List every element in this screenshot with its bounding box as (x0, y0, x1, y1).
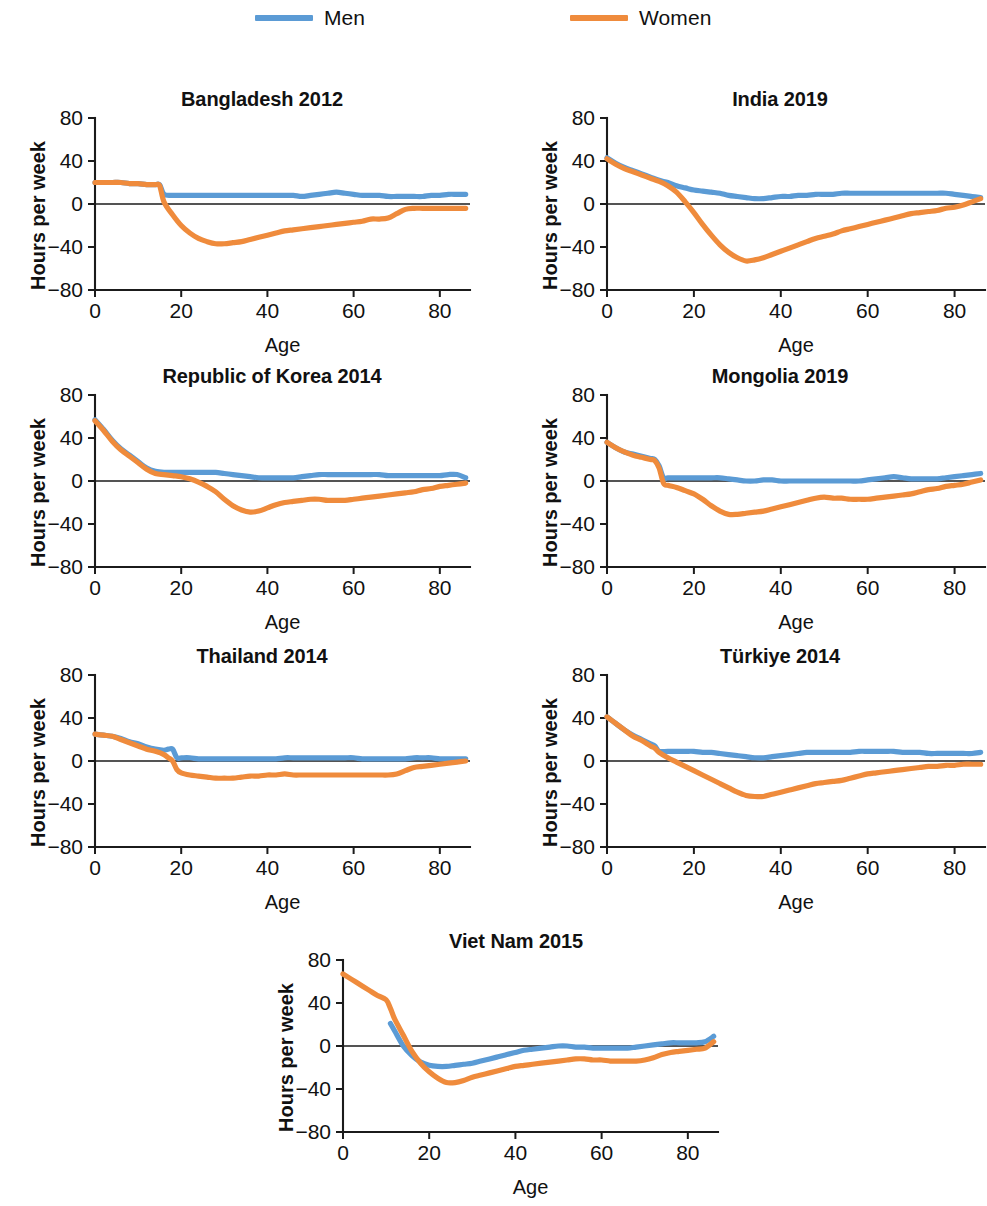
y-tick-label: 40 (60, 149, 83, 172)
y-tick-label: 80 (60, 106, 83, 129)
x-tick-label: 80 (943, 299, 966, 322)
x-tick-label: 40 (769, 576, 792, 599)
legend-label-men: Men (324, 6, 365, 30)
plot-area: 80400−40−80020406080 (248, 930, 738, 1172)
x-tick-label: 40 (256, 856, 279, 879)
x-tick-label: 20 (682, 576, 705, 599)
x-tick-label: 40 (769, 856, 792, 879)
chart-panel: Republic of Korea 2014Hours per weekAge8… (0, 365, 490, 620)
chart-panel: India 2019Hours per weekAge80400−40−8002… (490, 88, 987, 343)
y-tick-label: 40 (60, 426, 83, 449)
series-line-women (607, 159, 981, 261)
x-tick-label: 60 (342, 299, 365, 322)
series-line-men (607, 158, 981, 199)
y-tick-label: 0 (71, 749, 83, 772)
x-tick-label: 80 (943, 856, 966, 879)
y-tick-label: 80 (572, 106, 595, 129)
y-tick-label: −40 (47, 235, 83, 258)
x-tick-label: 80 (428, 299, 451, 322)
x-axis-label: Age (607, 611, 985, 634)
x-tick-label: 0 (89, 576, 101, 599)
x-tick-label: 20 (682, 856, 705, 879)
x-tick-label: 80 (676, 1141, 699, 1164)
x-tick-label: 80 (428, 856, 451, 879)
series-line-men (95, 734, 466, 759)
y-tick-label: 0 (319, 1034, 331, 1057)
x-tick-label: 40 (504, 1141, 527, 1164)
y-tick-label: 0 (583, 749, 595, 772)
series-line-women (95, 421, 466, 512)
legend-entry-men: Men (255, 6, 365, 30)
legend-entry-women: Women (570, 6, 711, 30)
y-tick-label: −80 (47, 835, 83, 858)
x-tick-label: 60 (590, 1141, 613, 1164)
y-tick-label: 40 (572, 706, 595, 729)
legend-swatch-women (570, 15, 628, 21)
chart-legend: Men Women (0, 0, 987, 36)
y-tick-label: 80 (572, 663, 595, 686)
legend-swatch-men (255, 15, 313, 21)
y-tick-label: 0 (583, 192, 595, 215)
x-axis-label: Age (95, 891, 470, 914)
y-tick-label: 80 (572, 383, 595, 406)
x-tick-label: 60 (856, 299, 879, 322)
y-tick-label: −80 (559, 835, 595, 858)
y-tick-label: 40 (60, 706, 83, 729)
y-tick-label: 80 (308, 948, 331, 971)
chart-panel: Türkiye 2014Hours per weekAge80400−40−80… (490, 645, 987, 900)
series-line-women (95, 182, 466, 244)
plot-area: 80400−40−80020406080 (0, 88, 490, 330)
x-tick-label: 0 (337, 1141, 349, 1164)
x-tick-label: 40 (256, 576, 279, 599)
plot-area: 80400−40−80020406080 (0, 645, 490, 887)
y-tick-label: 0 (71, 469, 83, 492)
y-tick-label: −80 (47, 278, 83, 301)
chart-panel: Mongolia 2019Hours per weekAge80400−40−8… (490, 365, 987, 620)
x-tick-label: 40 (769, 299, 792, 322)
x-tick-label: 0 (89, 299, 101, 322)
y-tick-label: −40 (47, 792, 83, 815)
y-tick-label: −40 (559, 235, 595, 258)
y-tick-label: 80 (60, 663, 83, 686)
y-tick-label: 40 (572, 426, 595, 449)
x-tick-label: 60 (342, 856, 365, 879)
y-tick-label: −80 (559, 278, 595, 301)
x-tick-label: 80 (428, 576, 451, 599)
x-axis-label: Age (95, 334, 470, 357)
x-tick-label: 60 (856, 856, 879, 879)
x-axis-label: Age (95, 611, 470, 634)
y-tick-label: −80 (47, 555, 83, 578)
x-axis-label: Age (607, 891, 985, 914)
x-tick-label: 60 (856, 576, 879, 599)
x-tick-label: 80 (943, 576, 966, 599)
chart-panel: Thailand 2014Hours per weekAge80400−40−8… (0, 645, 490, 900)
y-tick-label: −40 (559, 512, 595, 535)
y-tick-label: 40 (572, 149, 595, 172)
x-tick-label: 60 (342, 576, 365, 599)
y-tick-label: 80 (60, 383, 83, 406)
x-tick-label: 20 (418, 1141, 441, 1164)
y-tick-label: 40 (308, 991, 331, 1014)
plot-area: 80400−40−80020406080 (0, 365, 490, 607)
x-tick-label: 40 (256, 299, 279, 322)
y-tick-label: −80 (559, 555, 595, 578)
x-tick-label: 0 (601, 576, 613, 599)
x-tick-label: 20 (170, 576, 193, 599)
y-tick-label: −40 (295, 1077, 331, 1100)
y-tick-label: −40 (47, 512, 83, 535)
plot-area: 80400−40−80020406080 (490, 365, 987, 607)
chart-panel: Bangladesh 2012Hours per weekAge80400−40… (0, 88, 490, 343)
x-tick-label: 20 (170, 299, 193, 322)
x-tick-label: 0 (89, 856, 101, 879)
plot-area: 80400−40−80020406080 (490, 88, 987, 330)
x-tick-label: 0 (601, 299, 613, 322)
y-tick-label: 0 (583, 469, 595, 492)
series-line-women (343, 974, 714, 1083)
plot-area: 80400−40−80020406080 (490, 645, 987, 887)
legend-label-women: Women (639, 6, 711, 30)
x-tick-label: 20 (682, 299, 705, 322)
x-tick-label: 20 (170, 856, 193, 879)
x-axis-label: Age (607, 334, 985, 357)
y-tick-label: 0 (71, 192, 83, 215)
x-axis-label: Age (343, 1176, 718, 1199)
